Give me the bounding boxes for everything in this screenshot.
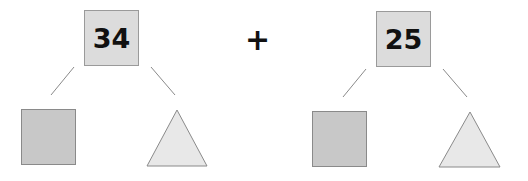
triangle-placeholder [147, 110, 207, 166]
left-bond [22, 67, 208, 166]
right-branch-line [151, 67, 175, 95]
square-placeholder [22, 110, 76, 165]
left-number-box: 34 [84, 10, 139, 66]
left-branch-line [51, 67, 74, 95]
right-number-box: 25 [376, 11, 431, 67]
triangle-placeholder [439, 112, 500, 167]
square-placeholder [313, 112, 367, 167]
right-branch-line [443, 69, 467, 97]
left-branch-line [343, 69, 366, 97]
right-bond [313, 69, 501, 167]
plus-operator: + [245, 25, 270, 55]
